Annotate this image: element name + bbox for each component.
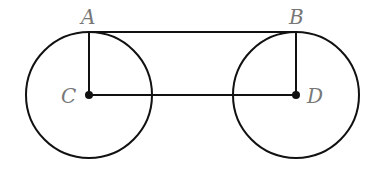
label-c: C	[61, 84, 76, 108]
point-c-dot	[85, 91, 93, 99]
label-a: A	[79, 5, 95, 29]
label-d: D	[306, 84, 323, 108]
two-circles-diagram: A B C D	[0, 0, 380, 172]
label-b: B	[288, 5, 304, 29]
point-d-dot	[292, 91, 300, 99]
